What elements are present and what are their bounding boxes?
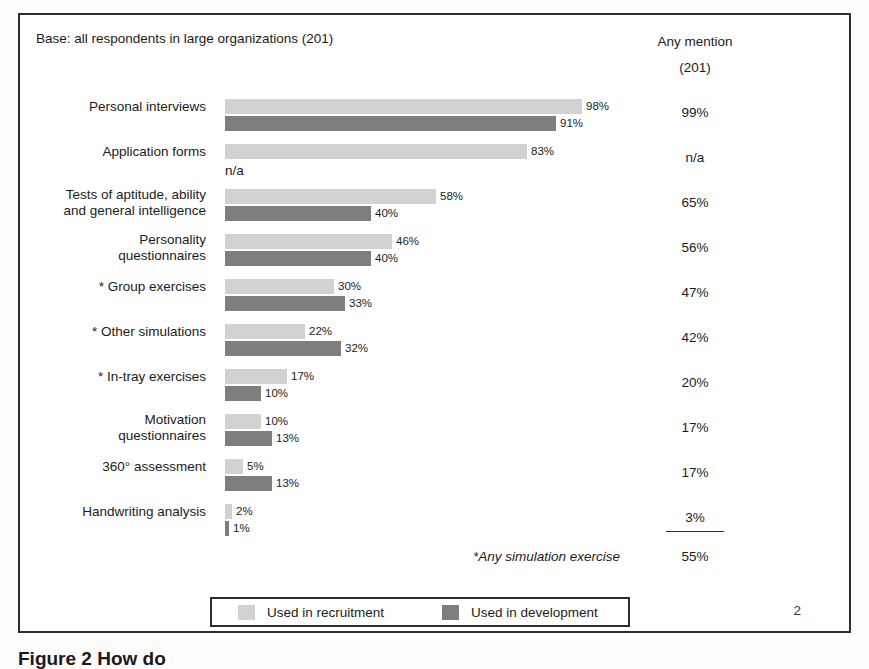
bar-line-development: 10% — [225, 386, 314, 401]
bar-line-development: 1% — [225, 521, 253, 536]
bar-row: Motivation questionnaires10%13%17% — [20, 414, 849, 459]
any-mention-value: 3% — [666, 510, 724, 532]
bar-group: 17%10% — [225, 369, 314, 403]
bar-value-development: 40% — [371, 206, 398, 221]
bar-value-recruitment: 5% — [243, 459, 264, 474]
bar-row-label: Personality questionnaires — [0, 232, 206, 264]
bar-line-recruitment: 30% — [225, 279, 372, 294]
any-mention-value: 56% — [620, 240, 770, 255]
bar-row: * In-tray exercises17%10%20% — [20, 369, 849, 414]
legend-item-recruitment: Used in recruitment — [238, 605, 384, 620]
bar-row-label: Handwriting analysis — [0, 504, 206, 520]
bar-row-label: Tests of aptitude, ability and general i… — [0, 187, 206, 219]
bar-group: 30%33% — [225, 279, 372, 313]
bar-development — [225, 116, 556, 131]
bar-group: 98%91% — [225, 99, 609, 133]
bar-row-label: Application forms — [0, 144, 206, 160]
bar-line-recruitment: 83% — [225, 144, 554, 159]
any-mention-value: 47% — [620, 285, 770, 300]
bar-value-development-na: n/a — [225, 163, 244, 178]
bar-row: Tests of aptitude, ability and general i… — [20, 189, 849, 234]
bar-row: * Other simulations22%32%42% — [20, 324, 849, 369]
bar-value-recruitment: 10% — [261, 414, 288, 429]
bar-recruitment — [225, 144, 527, 159]
bar-line-development: 13% — [225, 431, 299, 446]
bar-row: 360° assessment5%13%17% — [20, 459, 849, 504]
bar-recruitment — [225, 324, 305, 339]
bar-value-recruitment: 83% — [527, 144, 554, 159]
bar-line-recruitment: 5% — [225, 459, 299, 474]
bar-line-recruitment: 98% — [225, 99, 609, 114]
simulation-summary-row: *Any simulation exercise 55% — [20, 549, 849, 569]
bar-line-recruitment: 17% — [225, 369, 314, 384]
bar-value-development: 40% — [371, 251, 398, 266]
any-mention-value: 65% — [620, 195, 770, 210]
any-mention-value: 17% — [620, 420, 770, 435]
bar-row: Handwriting analysis2%1%3% — [20, 504, 849, 549]
any-mention-value: 17% — [620, 465, 770, 480]
bar-development — [225, 476, 272, 491]
bar-group: 10%13% — [225, 414, 299, 448]
any-mention-value: 42% — [620, 330, 770, 345]
legend-label-development: Used in development — [471, 605, 598, 620]
bar-line-recruitment: 58% — [225, 189, 463, 204]
bar-value-recruitment: 58% — [436, 189, 463, 204]
bar-group: 58%40% — [225, 189, 463, 223]
bar-recruitment — [225, 369, 287, 384]
figure-caption: Figure 2 How do — [18, 648, 166, 669]
bar-line-development: n/a — [225, 161, 554, 176]
bar-group: 46%40% — [225, 234, 419, 268]
bar-value-development: 32% — [341, 341, 368, 356]
bar-line-development: 33% — [225, 296, 372, 311]
bar-row-label: * In-tray exercises — [0, 369, 206, 385]
any-mention-value: n/a — [620, 150, 770, 165]
legend-swatch-recruitment-icon — [238, 605, 255, 620]
bar-value-recruitment: 22% — [305, 324, 332, 339]
any-mention-title: Any mention — [657, 34, 732, 49]
bar-line-development: 32% — [225, 341, 368, 356]
bar-value-recruitment: 17% — [287, 369, 314, 384]
bar-value-development: 1% — [229, 521, 250, 536]
bar-development — [225, 296, 345, 311]
bar-row: Application forms83%n/an/a — [20, 144, 849, 189]
bar-rows-container: Personal interviews98%91%99%Application … — [20, 99, 849, 549]
bar-line-development: 40% — [225, 251, 419, 266]
bar-row-label: Personal interviews — [0, 99, 206, 115]
simulation-summary-value: 55% — [620, 549, 770, 564]
any-mention-value: 20% — [620, 375, 770, 390]
simulation-summary-label: *Any simulation exercise — [473, 549, 620, 564]
bar-value-development: 13% — [272, 476, 299, 491]
bar-value-recruitment: 2% — [232, 504, 253, 519]
bar-recruitment — [225, 189, 436, 204]
bar-recruitment — [225, 504, 232, 519]
bar-value-recruitment: 98% — [582, 99, 609, 114]
bar-value-development: 91% — [556, 116, 583, 131]
bar-development — [225, 431, 272, 446]
any-mention-header: Any mention (201) — [620, 29, 770, 81]
bar-group: 83%n/a — [225, 144, 554, 178]
bar-recruitment — [225, 99, 582, 114]
bar-value-recruitment: 46% — [392, 234, 419, 249]
bar-group: 2%1% — [225, 504, 253, 538]
bar-value-development: 10% — [261, 386, 288, 401]
bar-row-label: * Group exercises — [0, 279, 206, 295]
bar-value-development: 33% — [345, 296, 372, 311]
bar-row: Personal interviews98%91%99% — [20, 99, 849, 144]
bar-development — [225, 386, 261, 401]
bar-line-recruitment: 2% — [225, 504, 253, 519]
legend-label-recruitment: Used in recruitment — [267, 605, 384, 620]
chart-legend: Used in recruitment Used in development — [210, 597, 630, 627]
legend-item-development: Used in development — [442, 605, 598, 620]
bar-row: Personality questionnaires46%40%56% — [20, 234, 849, 279]
bar-row-label: 360° assessment — [0, 459, 206, 475]
bar-line-recruitment: 46% — [225, 234, 419, 249]
bar-row: * Group exercises30%33%47% — [20, 279, 849, 324]
bar-line-development: 91% — [225, 116, 609, 131]
base-note: Base: all respondents in large organizat… — [36, 31, 333, 46]
bar-row-label: * Other simulations — [0, 324, 206, 340]
bar-recruitment — [225, 459, 243, 474]
bar-recruitment — [225, 279, 334, 294]
page-number: 2 — [793, 603, 801, 618]
bar-line-development: 13% — [225, 476, 299, 491]
bar-development — [225, 206, 371, 221]
